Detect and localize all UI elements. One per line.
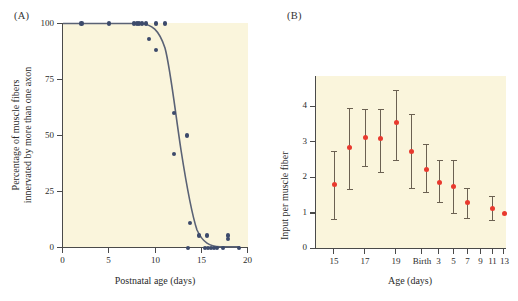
- error-bar-cap-bottom: [347, 189, 353, 190]
- panel-b-ytick-0: [310, 248, 315, 249]
- panel-b-xtick-3: [438, 249, 439, 254]
- panel-a-xtick-label-20: 20: [237, 255, 258, 265]
- error-bar-cap-bottom: [393, 160, 399, 161]
- panel-a-xtick-label-0: 0: [52, 255, 73, 265]
- error-bar-cap-bottom: [362, 166, 368, 167]
- figure-container: (A) 100 75 50 25 0 0 5 10 15 20 Postnata…: [0, 0, 518, 301]
- panel-b-ytick-4: [310, 106, 315, 107]
- error-bar: [396, 90, 397, 161]
- panel-b-ytick-label-0: 0: [285, 242, 307, 252]
- panel-a-xtick-5: [108, 248, 109, 253]
- panel-b-ytick-2: [310, 177, 315, 178]
- panel-a-plot-area: [63, 23, 248, 247]
- data-point: [226, 237, 230, 241]
- panel-a-xtick-10: [155, 248, 156, 253]
- data-point: [394, 120, 399, 125]
- panel-b-label: (B): [287, 10, 302, 21]
- data-point: [163, 21, 167, 25]
- panel-a-xtick-15: [201, 248, 202, 253]
- error-bar-cap-top: [378, 109, 384, 110]
- data-point: [409, 149, 414, 154]
- panel-a-y-axis-title-line2: innervated by more than one axon: [22, 67, 34, 203]
- data-point: [107, 21, 111, 25]
- data-point: [186, 246, 190, 250]
- panel-b-ytick-1: [310, 212, 315, 213]
- error-bar-cap-bottom: [451, 213, 457, 214]
- panel-b-xtick-11: [492, 249, 493, 254]
- panel-b-xtick-label-17: 17: [354, 256, 376, 266]
- panel-b-ytick-3: [310, 141, 315, 142]
- panel-b-xtick-17: [364, 249, 365, 254]
- error-bar-cap-bottom: [331, 219, 337, 220]
- data-point: [237, 246, 241, 250]
- panel-b-y-axis: [315, 76, 316, 249]
- panel-b-ytick-label-3: 3: [285, 136, 307, 146]
- panel-b-x-axis-title: Age (days): [360, 275, 460, 286]
- error-bar-cap-top: [393, 90, 399, 91]
- data-point: [424, 167, 429, 172]
- data-point: [172, 152, 176, 156]
- panel-b-x-axis: [315, 248, 506, 249]
- data-point: [502, 211, 507, 216]
- panel-a-ytick-label-100: 100: [24, 18, 54, 28]
- data-point: [154, 21, 158, 25]
- panel-a-xtick-label-10: 10: [145, 255, 166, 265]
- error-bar-cap-top: [464, 188, 470, 189]
- error-bar-cap-bottom: [464, 218, 470, 219]
- error-bar-cap-top: [437, 160, 443, 161]
- panel-b-xtick-19: [395, 249, 396, 254]
- data-point: [490, 206, 495, 211]
- error-bar-cap-top: [347, 108, 353, 109]
- data-point: [185, 133, 189, 137]
- panel-a-y-axis-title: Percentage of muscle fibers innervated b…: [10, 30, 34, 240]
- panel-b-xtick-label-15: 15: [323, 256, 345, 266]
- error-bar-cap-top: [362, 109, 368, 110]
- panel-a-x-axis-title: Postnatal age (days): [90, 275, 220, 286]
- error-bar-cap-top: [451, 160, 457, 161]
- error-bar-cap-top: [331, 151, 337, 152]
- panel-b-y-axis-title: Input per muscle fiber: [279, 151, 290, 240]
- panel-a-ytick-75: [57, 79, 62, 80]
- error-bar-cap-bottom: [378, 172, 384, 173]
- panel-a-xtick-20: [247, 248, 248, 253]
- panel-b-xtick-birth: [421, 249, 422, 254]
- panel-a-ytick-100: [57, 23, 62, 24]
- panel-a-ytick-label-0: 0: [24, 242, 54, 252]
- panel-b-xtick-label-19: 19: [385, 256, 407, 266]
- error-bar-cap-bottom: [423, 192, 429, 193]
- data-point: [332, 182, 337, 187]
- data-point: [363, 135, 368, 140]
- data-point: [221, 246, 225, 250]
- error-bar-cap-bottom: [409, 188, 415, 189]
- panel-a-y-axis-title-line1: Percentage of muscle fibers: [10, 80, 22, 191]
- data-point: [197, 233, 201, 237]
- panel-a: (A) 100 75 50 25 0 0 5 10 15 20 Postnata…: [0, 0, 265, 301]
- data-point: [465, 200, 470, 205]
- panel-a-xtick-0: [62, 248, 63, 253]
- panel-b: (B) 4 3 2 1 0 15 17 19 Birth 3 5 7: [265, 0, 518, 301]
- data-point: [437, 180, 442, 185]
- panel-b-xtick-7: [467, 249, 468, 254]
- error-bar-cap-top: [489, 196, 495, 197]
- panel-b-xtick-13: [503, 249, 504, 254]
- error-bar-cap-bottom: [437, 202, 443, 203]
- data-point: [140, 21, 144, 25]
- panel-b-xtick-15: [333, 249, 334, 254]
- error-bar-cap-top: [409, 114, 415, 115]
- panel-a-y-axis: [62, 23, 63, 248]
- error-bar-cap-bottom: [489, 220, 495, 221]
- panel-b-xtick-5: [453, 249, 454, 254]
- data-point: [79, 21, 83, 25]
- panel-b-xtick-9: [480, 249, 481, 254]
- panel-a-xtick-label-15: 15: [191, 255, 212, 265]
- error-bar-cap-top: [423, 144, 429, 145]
- panel-b-ytick-label-4: 4: [285, 100, 307, 110]
- panel-a-xtick-label-5: 5: [98, 255, 119, 265]
- panel-a-ytick-25: [57, 191, 62, 192]
- panel-b-xtick-label-13: 13: [496, 256, 513, 266]
- data-point: [215, 246, 219, 250]
- panel-a-ytick-50: [57, 135, 62, 136]
